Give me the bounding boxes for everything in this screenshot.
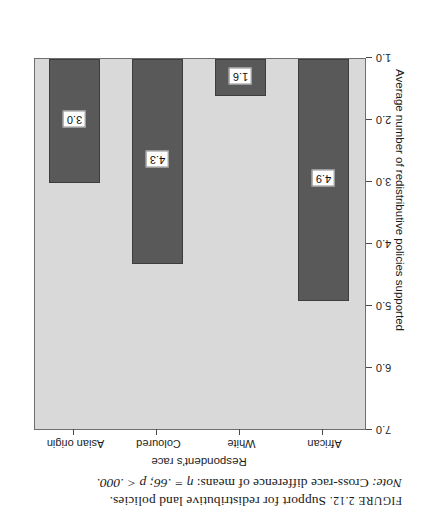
figure-caption-title-line: FIGURE 2.12. Support for redistributive … [12, 492, 402, 510]
figure-title-text: Support for redistributive land policies… [109, 494, 326, 509]
y-axis-title: Average number of redistributive policie… [394, 10, 406, 390]
plot-canvas: 4.91.64.33.0 [35, 59, 365, 429]
y-tick-label: 5.0 [376, 300, 391, 312]
note-body-text: Cross-race difference of means: [197, 476, 369, 491]
x-tick-mark [157, 429, 158, 435]
y-tick-mark [366, 429, 372, 430]
plot-area: 4.91.64.33.0 [34, 58, 366, 430]
x-tick-mark [240, 429, 241, 435]
y-tick-mark [366, 57, 372, 58]
y-tick-label: 4.0 [376, 238, 391, 250]
y-tick-mark [366, 305, 372, 306]
bar-value-label: 4.9 [312, 169, 335, 186]
y-tick-mark [366, 367, 372, 368]
note-statistic: η = .66; p < .000. [97, 476, 194, 491]
x-tick-mark [74, 429, 75, 435]
y-tick-label: 3.0 [376, 176, 391, 188]
x-axis-title: Respondent's race [34, 456, 364, 468]
y-tick-label: 6.0 [376, 362, 391, 374]
x-tick-label: Asian origin [26, 438, 126, 450]
figure-caption: FIGURE 2.12. Support for redistributive … [12, 474, 402, 510]
x-axis-tick-labels: AfricanWhiteColouredAsian origin [34, 434, 366, 450]
figure-number: 2.12. [330, 495, 355, 507]
figure-caption-note-line: Note: Cross-race difference of means: η … [12, 474, 402, 492]
note-label-word: Note: [372, 476, 402, 491]
y-tick-label: 1.0 [376, 52, 391, 64]
y-tick-mark [366, 243, 372, 244]
y-tick-mark [366, 181, 372, 182]
figure-label-word: FIGURE [358, 495, 402, 507]
y-tick-mark [366, 119, 372, 120]
bar-chart: Respondent's race AfricanWhiteColouredAs… [24, 16, 424, 468]
y-tick-label: 2.0 [376, 114, 391, 126]
bar-value-label: 1.6 [229, 67, 252, 84]
bar-value-label: 3.0 [63, 111, 86, 128]
rotated-figure-stage: FIGURE 2.12. Support for redistributive … [0, 0, 448, 524]
bar-value-label: 4.3 [146, 151, 169, 168]
x-tick-mark [323, 429, 324, 435]
y-axis: Average number of redistributive policie… [366, 58, 424, 430]
y-tick-label: 7.0 [376, 424, 391, 436]
